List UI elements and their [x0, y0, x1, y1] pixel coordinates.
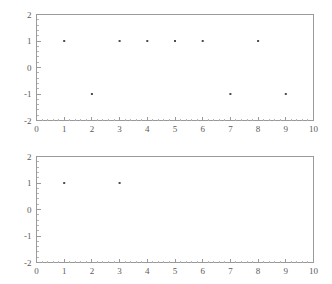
data-point [63, 182, 65, 184]
y-tick-label: 2 [27, 152, 32, 162]
x-tick-label: 1 [62, 266, 67, 276]
x-tick-label: 9 [284, 266, 289, 276]
x-tick-label: 0 [34, 266, 39, 276]
data-point [174, 40, 176, 42]
y-tick-label: -1 [24, 89, 32, 99]
x-tick-label: 0 [34, 124, 39, 134]
x-tick-label: 10 [309, 124, 319, 134]
x-tick-label: 3 [117, 124, 122, 134]
x-tick-label: 9 [284, 124, 289, 134]
x-tick-label: 1 [62, 124, 67, 134]
x-tick-label: 2 [90, 124, 95, 134]
plot-frame [37, 157, 314, 263]
scatter-plot-top: 012345678910-2-1012 [0, 0, 332, 142]
plot-stack: 012345678910-2-1012 012345678910-2-1012 [0, 0, 332, 284]
x-tick-label: 3 [117, 266, 122, 276]
x-tick-label: 2 [90, 266, 95, 276]
data-point [229, 93, 231, 95]
x-tick-label: 8 [256, 124, 261, 134]
data-series [63, 182, 120, 184]
plot-frame [37, 15, 314, 121]
data-point [257, 40, 259, 42]
x-tick-label: 5 [173, 266, 178, 276]
y-tick-label: -1 [24, 231, 32, 241]
x-tick-label: 7 [228, 266, 233, 276]
data-series [63, 40, 287, 95]
y-tick-label: -2 [24, 258, 32, 268]
data-point [285, 93, 287, 95]
y-tick-label: -2 [24, 116, 32, 126]
x-tick-label: 4 [145, 124, 150, 134]
x-tick-label: 4 [145, 266, 150, 276]
data-point [202, 40, 204, 42]
data-point [91, 93, 93, 95]
chart-canvas: 012345678910-2-1012 [0, 0, 332, 142]
data-point [119, 182, 121, 184]
y-tick-label: 0 [27, 205, 32, 215]
y-tick-label: 1 [27, 178, 32, 188]
data-point [146, 40, 148, 42]
x-tick-label: 8 [256, 266, 261, 276]
y-tick-label: 0 [27, 63, 32, 73]
y-tick-label: 2 [27, 10, 32, 20]
chart-canvas: 012345678910-2-1012 [0, 142, 332, 284]
y-tick-label: 1 [27, 36, 32, 46]
x-tick-label: 7 [228, 124, 233, 134]
data-point [119, 40, 121, 42]
x-tick-label: 6 [200, 124, 205, 134]
x-tick-label: 5 [173, 124, 178, 134]
scatter-plot-bottom: 012345678910-2-1012 [0, 142, 332, 284]
x-tick-label: 10 [309, 266, 319, 276]
x-tick-label: 6 [200, 266, 205, 276]
data-point [63, 40, 65, 42]
